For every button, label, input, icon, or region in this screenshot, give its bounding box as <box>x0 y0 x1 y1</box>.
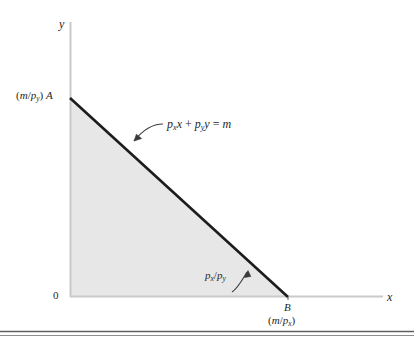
x-intercept-value-label: (m/px) <box>268 315 295 328</box>
slope-label: px/py <box>205 270 226 283</box>
budget-equation-label: pxx + pyy = m <box>167 118 231 132</box>
y-intercept-label: (m/py) A <box>16 90 53 103</box>
y-intercept-point-a: A <box>46 89 53 101</box>
y-intercept-m: m <box>20 89 28 101</box>
origin-label: 0 <box>53 290 59 301</box>
x-intercept-m: m <box>272 314 280 326</box>
x-intercept-close-paren: ) <box>292 314 296 326</box>
budget-constraint-figure: y x 0 (m/py) A pxx + pyy = m px/py B (m/… <box>0 0 414 344</box>
x-axis-label: x <box>387 291 392 303</box>
equation-var1: x <box>177 117 182 131</box>
x-intercept-point-label: B <box>284 302 291 313</box>
equation-var2: y <box>204 117 209 131</box>
slope-p2-subscript: y <box>222 274 225 283</box>
y-axis-label: y <box>59 18 64 30</box>
y-intercept-close-paren: ) <box>40 89 44 101</box>
equation-rhs: m <box>222 117 231 131</box>
equation-plus: + <box>185 117 192 131</box>
equation-equals: = <box>213 117 220 131</box>
budget-equation-pointer-arrow <box>134 124 163 141</box>
figure-canvas <box>0 0 414 344</box>
